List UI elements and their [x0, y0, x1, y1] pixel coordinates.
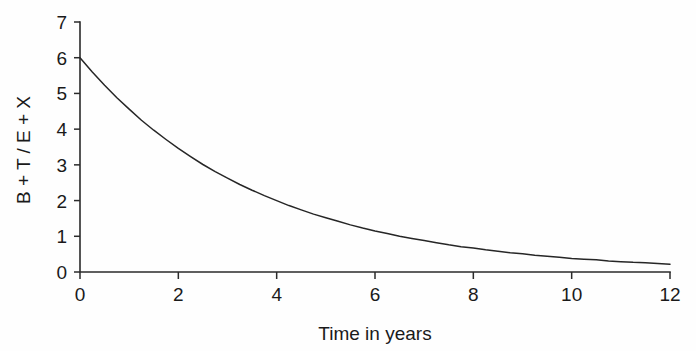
x-tick-label: 0 [75, 284, 86, 305]
axis-spines [80, 22, 670, 272]
y-axis-title: B + T / E + X [13, 96, 34, 204]
x-tick-label: 10 [561, 284, 582, 305]
y-tick-label: 0 [56, 262, 67, 283]
y-tick-label: 3 [56, 155, 67, 176]
y-tick-label: 1 [56, 226, 67, 247]
series-line-b-t-e-x [80, 58, 670, 264]
y-tick-label: 6 [56, 48, 67, 69]
x-axis-tick-labels: 024681012 [75, 284, 681, 305]
y-tick-label: 2 [56, 191, 67, 212]
y-axis-ticks [74, 22, 80, 272]
y-tick-label: 5 [56, 83, 67, 104]
chart-figure: 01234567 024681012 Time in years B + T /… [0, 0, 696, 351]
x-axis-ticks [80, 272, 670, 279]
x-tick-label: 8 [468, 284, 479, 305]
y-tick-label: 4 [56, 119, 67, 140]
x-tick-label: 6 [370, 284, 381, 305]
x-tick-label: 12 [659, 284, 680, 305]
x-tick-label: 4 [271, 284, 282, 305]
x-tick-label: 2 [173, 284, 184, 305]
exponential-decay-chart: 01234567 024681012 Time in years B + T /… [0, 0, 696, 351]
x-axis-title: Time in years [318, 323, 431, 344]
y-axis-tick-labels: 01234567 [56, 12, 67, 283]
y-tick-label: 7 [56, 12, 67, 33]
